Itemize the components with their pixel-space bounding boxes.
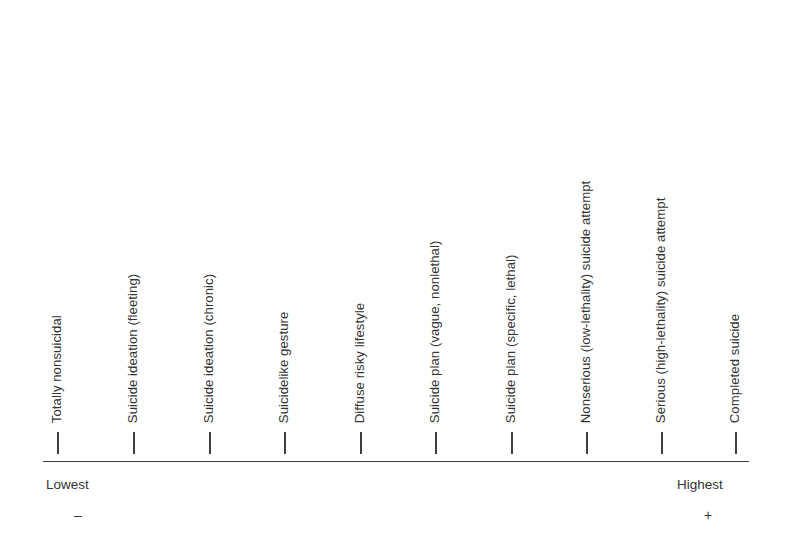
tick-mark <box>360 432 362 454</box>
tick-label: Serious (high-lethality) suicide attempt <box>654 197 667 423</box>
tick-mark <box>511 432 513 454</box>
tick-mark <box>735 432 737 454</box>
tick-mark <box>586 432 588 454</box>
tick-label: Suicide ideation (fleeting) <box>126 274 139 423</box>
tick-mark <box>284 432 286 454</box>
tick-label: Nonserious (low-lethality) suicide attem… <box>579 180 592 423</box>
tick-label: Suicide plan (vague, nonlethal) <box>428 240 441 423</box>
axis-low-anchor-sign: – <box>68 507 88 523</box>
tick-label: Suicide ideation (chronic) <box>202 274 215 423</box>
axis-baseline <box>43 461 749 462</box>
axis-low-anchor-label: Lowest <box>46 477 89 493</box>
axis-high-anchor-sign: + <box>698 507 718 523</box>
tick-label: Completed suicide <box>728 314 741 423</box>
tick-mark <box>209 432 211 454</box>
axis-high-anchor-label: Highest <box>677 477 723 493</box>
suicide-risk-continuum-figure: Totally nonsuicidalSuicide ideation (fle… <box>0 0 792 548</box>
tick-mark <box>661 432 663 454</box>
tick-mark <box>57 432 59 454</box>
tick-label: Suicide plan (specific, lethal) <box>504 254 517 423</box>
tick-mark <box>133 432 135 454</box>
tick-label: Suicidelike gesture <box>277 311 290 423</box>
tick-mark <box>435 432 437 454</box>
tick-label: Totally nonsuicidal <box>50 315 63 423</box>
tick-label: Diffuse risky lifestyle <box>353 303 366 423</box>
